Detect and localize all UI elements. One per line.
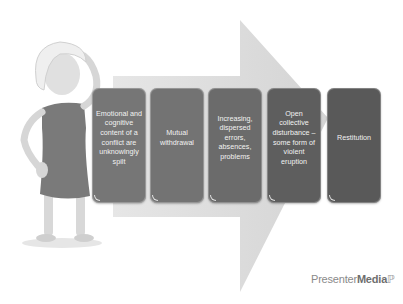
step-label-1: Emotional and cognitive content of a con…	[95, 109, 143, 167]
step-box-2: Mutual withdrawal	[150, 88, 204, 203]
presentermedia-logo: PresenterMediaℙ	[311, 273, 395, 286]
logo-text-part1: Presenter	[311, 273, 357, 285]
step-box-3: Increasing, dispersed errors, absences, …	[208, 88, 262, 203]
logo-flag-icon: ℙ	[387, 273, 395, 285]
logo-text-part2: Media	[357, 273, 387, 285]
step-box-1: Emotional and cognitive content of a con…	[92, 88, 146, 203]
step-label-2: Mutual withdrawal	[153, 128, 201, 147]
step-label-4: Open collective disturbance – some form …	[270, 109, 318, 167]
step-box-5: Restitution	[327, 88, 381, 203]
step-label-3: Increasing, dispersed errors, absences, …	[211, 114, 259, 162]
step-label-5: Restitution	[337, 133, 371, 143]
step-box-4: Open collective disturbance – some form …	[267, 88, 321, 203]
